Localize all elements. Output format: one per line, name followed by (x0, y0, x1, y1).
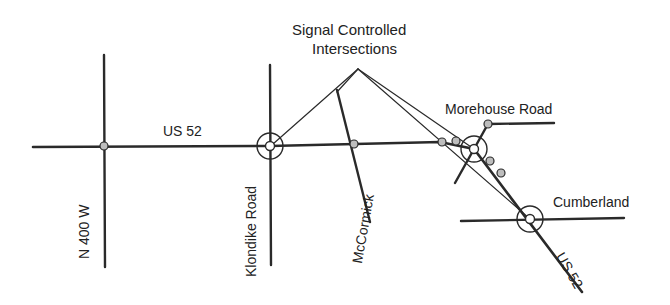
klondike-label: Klondike Road (244, 186, 258, 277)
n400w-label: N 400 W (77, 205, 91, 259)
us52-road (33, 142, 582, 292)
us52-label: US 52 (163, 124, 202, 138)
morehouse-label: Morehouse Road (445, 102, 552, 116)
n400w-road (104, 55, 105, 267)
callout-label-line2: Intersections (312, 41, 397, 56)
road-map-diagram: Signal Controlled Intersections US 52 Mo… (0, 0, 670, 305)
klondike-road (270, 65, 271, 265)
callout-label-line1: Signal Controlled (292, 22, 406, 37)
cumberland-label: Cumberland (553, 195, 629, 209)
